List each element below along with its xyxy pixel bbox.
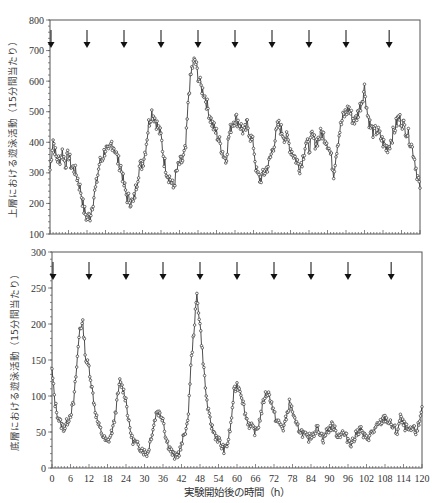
data-point	[278, 127, 281, 130]
data-point	[180, 156, 183, 159]
data-point	[352, 119, 355, 122]
data-point	[196, 302, 199, 305]
data-point	[418, 420, 421, 423]
down-arrow-icon	[197, 262, 204, 280]
upper-y-axis-label: 上層における遊泳活動（15分間当たり）	[7, 36, 18, 218]
data-point	[161, 150, 164, 153]
data-point	[137, 177, 140, 180]
data-point	[200, 84, 203, 87]
down-arrow-icon	[234, 262, 241, 280]
data-point	[151, 434, 154, 437]
data-point	[68, 420, 71, 423]
data-point	[148, 449, 151, 452]
data-point	[334, 429, 337, 432]
data-point	[227, 442, 230, 445]
data-point	[322, 442, 325, 445]
data-point	[397, 428, 400, 431]
down-arrow-icon	[86, 262, 93, 280]
data-point	[187, 101, 190, 104]
data-point	[302, 158, 305, 161]
y-tick-label: 150	[31, 355, 46, 366]
data-point	[322, 131, 325, 134]
data-point	[190, 354, 193, 357]
data-point	[70, 414, 73, 417]
data-point	[93, 189, 96, 192]
data-point	[150, 120, 153, 123]
data-point	[209, 416, 212, 419]
data-point	[186, 118, 189, 121]
data-point	[140, 159, 143, 162]
data-point	[179, 449, 182, 452]
data-point	[115, 412, 118, 415]
x-tick-label: 102	[359, 473, 374, 484]
data-point	[307, 140, 310, 143]
down-arrow-icon	[269, 30, 276, 48]
data-point	[413, 158, 416, 161]
data-point	[252, 425, 255, 428]
data-point	[120, 164, 123, 167]
data-point	[98, 422, 101, 425]
data-point	[285, 418, 288, 421]
lower-y-axis: 050100150200250300	[31, 247, 52, 474]
data-point	[113, 421, 116, 424]
data-point	[260, 181, 263, 184]
data-point	[122, 391, 125, 394]
data-point	[235, 113, 238, 116]
data-point	[86, 359, 89, 362]
data-point	[56, 161, 59, 164]
data-point	[221, 150, 224, 153]
data-point	[242, 400, 245, 403]
data-point	[348, 106, 351, 109]
data-point	[171, 182, 174, 185]
data-point	[240, 397, 243, 400]
data-point	[368, 439, 371, 442]
data-point	[54, 147, 57, 150]
data-point	[133, 193, 136, 196]
data-point	[237, 119, 240, 122]
data-point	[66, 152, 69, 155]
data-point	[193, 324, 196, 327]
data-point	[418, 180, 421, 183]
data-point	[204, 95, 207, 98]
data-point	[125, 397, 128, 400]
data-point	[146, 455, 149, 458]
data-point	[336, 152, 339, 155]
data-point	[194, 308, 197, 311]
data-point	[128, 419, 131, 422]
data-point	[288, 398, 291, 401]
data-point	[215, 127, 218, 130]
x-tick-label: 48	[195, 473, 205, 484]
data-point	[300, 161, 303, 164]
data-point	[400, 415, 403, 418]
data-point	[411, 146, 414, 149]
data-point	[188, 394, 191, 397]
y-tick-label: 100	[31, 391, 46, 402]
data-point	[313, 435, 316, 438]
data-point	[80, 327, 83, 330]
data-point	[267, 165, 270, 168]
data-point	[330, 152, 333, 155]
data-point	[83, 338, 86, 341]
data-point	[78, 189, 81, 192]
data-point	[168, 175, 171, 178]
data-point	[301, 436, 304, 439]
down-arrow-icon	[345, 262, 352, 280]
data-point	[243, 403, 246, 406]
data-point	[325, 142, 328, 145]
data-point	[82, 319, 85, 322]
data-point	[298, 170, 301, 173]
data-point	[329, 424, 332, 427]
data-point	[50, 159, 53, 162]
data-point	[275, 127, 278, 130]
data-point	[208, 412, 211, 415]
data-point	[345, 432, 348, 435]
data-point	[391, 142, 394, 145]
data-point	[199, 76, 202, 79]
data-point	[238, 388, 241, 391]
data-point	[230, 417, 233, 420]
data-point	[136, 440, 139, 443]
data-point	[389, 147, 392, 150]
data-point	[356, 119, 359, 122]
data-point	[75, 174, 78, 177]
data-point	[288, 142, 291, 145]
